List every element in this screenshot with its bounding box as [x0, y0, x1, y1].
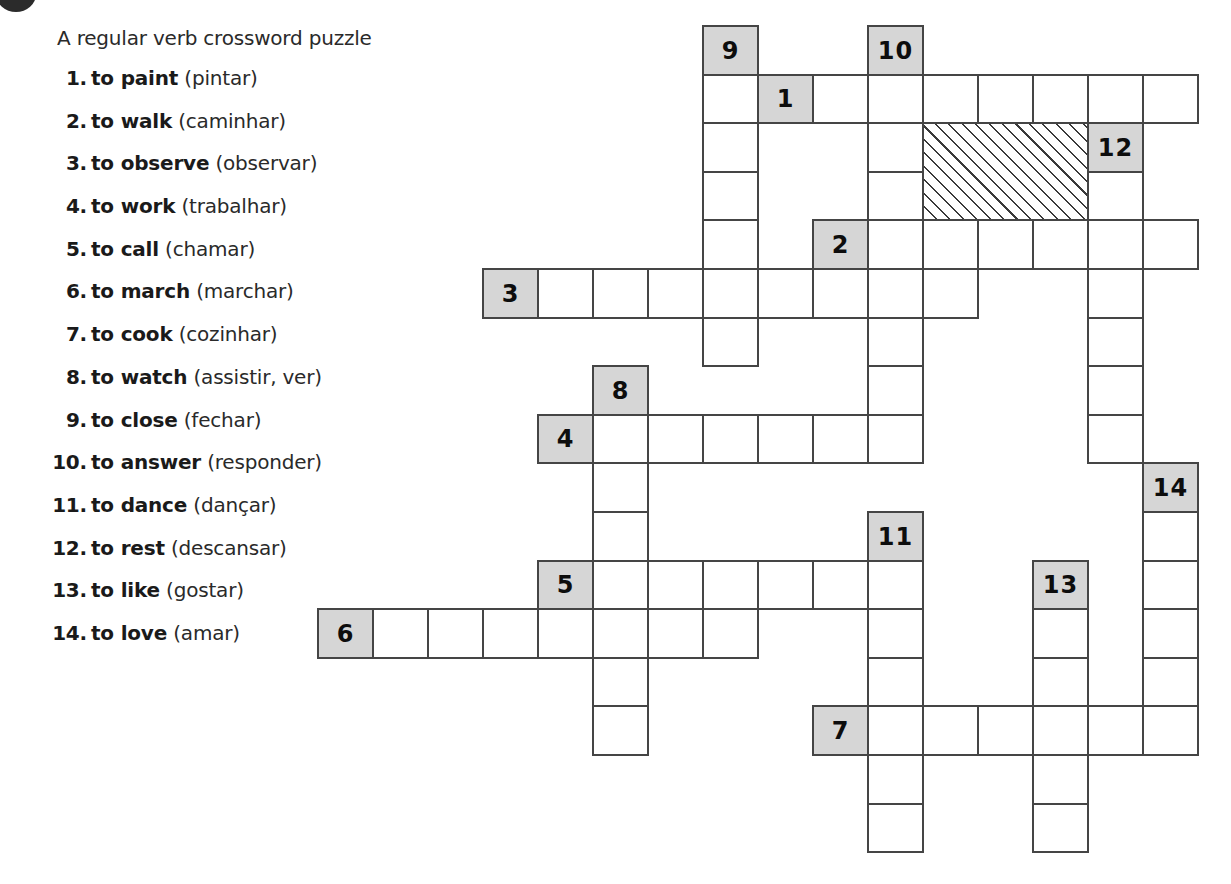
answer-cell[interactable] [702, 268, 759, 319]
answer-cell[interactable] [1087, 705, 1144, 756]
answer-cell[interactable] [702, 317, 759, 367]
answer-cell[interactable] [922, 219, 979, 270]
answer-cell[interactable] [702, 219, 759, 270]
answer-cell[interactable] [702, 608, 759, 659]
answer-cell[interactable] [757, 414, 814, 464]
clue-number-cell-12: 12 [1087, 122, 1144, 173]
answer-cell[interactable] [1087, 219, 1144, 270]
clue-number-cell-10: 10 [867, 25, 924, 76]
answer-cell[interactable] [592, 462, 649, 513]
answer-cell[interactable] [1087, 268, 1144, 319]
answer-cell[interactable] [537, 268, 594, 319]
clue-number-cell-6: 6 [317, 608, 374, 659]
answer-cell[interactable] [812, 414, 869, 464]
answer-cell[interactable] [702, 122, 759, 173]
answer-cell[interactable] [867, 171, 924, 221]
answer-cell[interactable] [482, 608, 539, 659]
clue-number-cell-2: 2 [812, 219, 869, 270]
answer-cell[interactable] [757, 560, 814, 610]
answer-cell[interactable] [1032, 608, 1089, 659]
answer-cell[interactable] [1087, 74, 1144, 124]
answer-cell[interactable] [867, 803, 924, 853]
answer-cell[interactable] [592, 414, 649, 464]
answer-cell[interactable] [867, 657, 924, 707]
answer-cell[interactable] [812, 74, 869, 124]
answer-cell[interactable] [1142, 219, 1199, 270]
clue-number-cell-7: 7 [812, 705, 869, 756]
answer-cell[interactable] [922, 268, 979, 319]
answer-cell[interactable] [592, 511, 649, 562]
answer-cell[interactable] [977, 219, 1034, 270]
answer-cell[interactable] [592, 268, 649, 319]
answer-cell[interactable] [592, 657, 649, 707]
clue-number-cell-5: 5 [537, 560, 594, 610]
answer-cell[interactable] [1142, 608, 1199, 659]
answer-cell[interactable] [922, 74, 979, 124]
answer-cell[interactable] [1142, 511, 1199, 562]
answer-cell[interactable] [427, 608, 484, 659]
clue-number-cell-14: 14 [1142, 462, 1199, 513]
clue-number-cell-8: 8 [592, 365, 649, 416]
answer-cell[interactable] [867, 74, 924, 124]
answer-cell[interactable] [1142, 705, 1199, 756]
answer-cell[interactable] [867, 268, 924, 319]
answer-cell[interactable] [867, 754, 924, 805]
answer-cell[interactable] [372, 608, 429, 659]
clue-number-cell-13: 13 [1032, 560, 1089, 610]
hatched-block [922, 122, 1089, 221]
answer-cell[interactable] [1142, 657, 1199, 707]
answer-cell[interactable] [867, 219, 924, 270]
answer-cell[interactable] [592, 560, 649, 610]
answer-cell[interactable] [647, 268, 704, 319]
clue-number-cell-3: 3 [482, 268, 539, 319]
answer-cell[interactable] [647, 414, 704, 464]
answer-cell[interactable] [702, 171, 759, 221]
clue-number-cell-1: 1 [757, 74, 814, 124]
answer-cell[interactable] [1032, 219, 1089, 270]
answer-cell[interactable] [1032, 74, 1089, 124]
answer-cell[interactable] [922, 705, 979, 756]
answer-cell[interactable] [812, 560, 869, 610]
answer-cell[interactable] [592, 608, 649, 659]
crossword-grid: 1234567891011121314 [0, 0, 1231, 884]
answer-cell[interactable] [867, 122, 924, 173]
answer-cell[interactable] [1032, 754, 1089, 805]
answer-cell[interactable] [647, 560, 704, 610]
answer-cell[interactable] [1142, 74, 1199, 124]
answer-cell[interactable] [757, 268, 814, 319]
answer-cell[interactable] [1087, 414, 1144, 464]
answer-cell[interactable] [1142, 560, 1199, 610]
answer-cell[interactable] [537, 608, 594, 659]
answer-cell[interactable] [1087, 317, 1144, 367]
answer-cell[interactable] [1032, 803, 1089, 853]
answer-cell[interactable] [977, 74, 1034, 124]
answer-cell[interactable] [592, 705, 649, 756]
answer-cell[interactable] [1087, 365, 1144, 416]
answer-cell[interactable] [867, 317, 924, 367]
answer-cell[interactable] [702, 74, 759, 124]
clue-number-cell-11: 11 [867, 511, 924, 562]
answer-cell[interactable] [977, 705, 1034, 756]
answer-cell[interactable] [867, 608, 924, 659]
answer-cell[interactable] [1032, 705, 1089, 756]
answer-cell[interactable] [867, 705, 924, 756]
answer-cell[interactable] [867, 560, 924, 610]
answer-cell[interactable] [1087, 171, 1144, 221]
answer-cell[interactable] [812, 268, 869, 319]
answer-cell[interactable] [702, 560, 759, 610]
answer-cell[interactable] [1032, 657, 1089, 707]
answer-cell[interactable] [702, 414, 759, 464]
answer-cell[interactable] [867, 414, 924, 464]
clue-number-cell-4: 4 [537, 414, 594, 464]
clue-number-cell-9: 9 [702, 25, 759, 76]
answer-cell[interactable] [647, 608, 704, 659]
answer-cell[interactable] [867, 365, 924, 416]
